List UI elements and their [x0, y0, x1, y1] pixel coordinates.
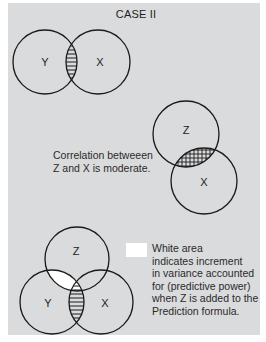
caption-line: Correlation betweeen	[53, 149, 153, 162]
label-x: X	[101, 297, 109, 309]
caption-line: in variance accounted	[152, 267, 262, 280]
caption-line: White area	[152, 242, 262, 255]
diagram-top: Y X	[13, 30, 130, 94]
label-y: Y	[41, 56, 49, 68]
label-y: Y	[44, 297, 52, 309]
legend-white-swatch	[126, 243, 147, 257]
caption-line: indicates increment	[152, 255, 262, 268]
caption-line: for (predictive power)	[152, 280, 262, 293]
label-x: X	[200, 176, 208, 188]
legend-caption: White area indicates increment in varian…	[152, 242, 262, 317]
diagram-middle: Z X	[153, 101, 237, 214]
diagram-bottom: Z Y X	[20, 227, 133, 334]
caption-line: Z and X is moderate.	[53, 162, 153, 175]
label-z: Z	[73, 245, 80, 257]
label-z: Z	[183, 124, 190, 136]
correlation-caption: Correlation betweeen Z and X is moderate…	[53, 149, 153, 174]
label-x: X	[96, 56, 104, 68]
caption-line: Prediction formula.	[152, 305, 262, 318]
caption-line: when Z is added to the	[152, 292, 262, 305]
